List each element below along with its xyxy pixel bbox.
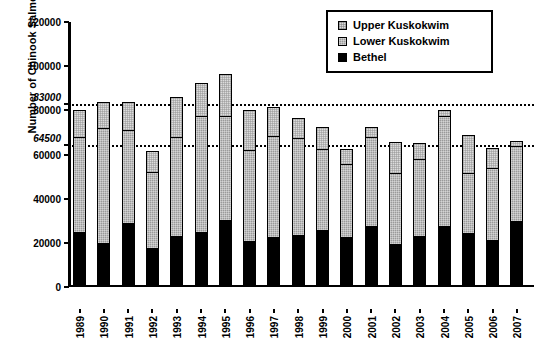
bar-segment-upper-kuskokwim-2001 xyxy=(365,127,378,137)
legend-item-lower-kuskokwim: Lower Kuskokwim xyxy=(328,33,491,49)
bar-segment-bethel-2000 xyxy=(340,237,353,287)
bar-2004 xyxy=(438,110,451,287)
bar-segment-bethel-2005 xyxy=(462,233,475,287)
x-tick-1993 xyxy=(176,309,178,313)
reference-line-label-64500: 64500 xyxy=(33,132,61,143)
legend-label-lower: Lower Kuskokwim xyxy=(353,35,450,47)
x-tick-label-1996: 1996 xyxy=(245,316,256,338)
x-tick-label-2004: 2004 xyxy=(440,316,451,338)
x-tick-1990 xyxy=(103,309,105,313)
bar-segment-bethel-1989 xyxy=(73,232,86,287)
bar-segment-bethel-1993 xyxy=(170,236,183,287)
x-tick-label-2001: 2001 xyxy=(367,316,378,338)
bar-segment-lower-kuskokwim-2007 xyxy=(510,146,523,221)
bar-segment-upper-kuskokwim-1991 xyxy=(122,102,135,131)
x-tick-1992 xyxy=(151,309,153,313)
chart-legend: Upper Kuskokwim Lower Kuskokwim Bethel xyxy=(326,10,493,73)
x-tick-1998 xyxy=(297,309,299,313)
bar-segment-bethel-2002 xyxy=(389,244,402,287)
x-tick-2001 xyxy=(370,309,372,313)
bar-1990 xyxy=(97,102,110,287)
x-tick-label-2000: 2000 xyxy=(342,316,353,338)
bar-segment-lower-kuskokwim-1994 xyxy=(195,116,208,232)
bar-segment-upper-kuskokwim-1992 xyxy=(146,151,159,172)
x-tick-label-2003: 2003 xyxy=(415,316,426,338)
y-tick-label-120000: 120000 xyxy=(28,17,61,28)
y-tick-label-40000: 40000 xyxy=(33,193,61,204)
bar-segment-bethel-1996 xyxy=(243,241,256,287)
x-tick-label-1989: 1989 xyxy=(75,316,86,338)
bar-2003 xyxy=(413,143,426,287)
bar-segment-upper-kuskokwim-1990 xyxy=(97,102,110,129)
x-tick-1991 xyxy=(127,309,129,313)
x-tick-2003 xyxy=(419,309,421,313)
x-tick-label-2007: 2007 xyxy=(512,316,523,338)
bar-segment-lower-kuskokwim-1996 xyxy=(243,150,256,241)
bar-segment-upper-kuskokwim-2002 xyxy=(389,142,402,173)
bar-1997 xyxy=(267,107,280,287)
bar-segment-lower-kuskokwim-2005 xyxy=(462,173,475,233)
bar-segment-upper-kuskokwim-1998 xyxy=(292,118,305,138)
x-tick-1999 xyxy=(322,309,324,313)
bar-1995 xyxy=(219,74,232,287)
bar-1998 xyxy=(292,118,305,287)
y-tick-label-80000: 80000 xyxy=(33,105,61,116)
bar-segment-lower-kuskokwim-1993 xyxy=(170,137,183,236)
x-tick-2007 xyxy=(516,309,518,313)
bar-segment-lower-kuskokwim-1998 xyxy=(292,138,305,235)
bar-segment-bethel-1991 xyxy=(122,223,135,287)
bar-segment-upper-kuskokwim-1995 xyxy=(219,74,232,116)
bar-segment-lower-kuskokwim-1989 xyxy=(73,137,86,232)
bar-segment-lower-kuskokwim-1990 xyxy=(97,128,110,243)
bar-segment-lower-kuskokwim-2002 xyxy=(389,173,402,244)
x-tick-label-1995: 1995 xyxy=(221,316,232,338)
x-tick-2002 xyxy=(394,309,396,313)
x-tick-label-1993: 1993 xyxy=(172,316,183,338)
x-tick-1989 xyxy=(79,309,81,313)
bar-segment-bethel-1994 xyxy=(195,232,208,287)
x-tick-label-1998: 1998 xyxy=(294,316,305,338)
legend-swatch-icon-upper xyxy=(338,21,347,30)
legend-item-bethel: Bethel xyxy=(328,49,491,65)
bar-segment-upper-kuskokwim-1996 xyxy=(243,110,256,150)
y-tick-label-60000: 60000 xyxy=(33,149,61,160)
bar-1991 xyxy=(122,102,135,287)
legend-label-upper: Upper Kuskokwim xyxy=(353,19,449,31)
bar-1993 xyxy=(170,97,183,287)
bar-segment-lower-kuskokwim-2004 xyxy=(438,116,451,226)
x-tick-label-1997: 1997 xyxy=(269,316,280,338)
bar-2005 xyxy=(462,135,475,287)
y-tick-label-100000: 100000 xyxy=(28,61,61,72)
bar-segment-bethel-1997 xyxy=(267,237,280,287)
x-tick-label-1992: 1992 xyxy=(148,316,159,338)
legend-item-upper-kuskokwim: Upper Kuskokwim xyxy=(328,17,491,33)
bar-segment-upper-kuskokwim-1994 xyxy=(195,83,208,116)
x-tick-label-2002: 2002 xyxy=(391,316,402,338)
x-tick-label-2005: 2005 xyxy=(464,316,475,338)
bar-segment-upper-kuskokwim-2006 xyxy=(486,148,499,168)
reference-line-label-83000: 83000 xyxy=(33,91,61,102)
x-tick-label-1999: 1999 xyxy=(318,316,329,338)
bar-2000 xyxy=(340,149,353,287)
bar-segment-lower-kuskokwim-1995 xyxy=(219,116,232,220)
x-tick-label-1994: 1994 xyxy=(197,316,208,338)
bar-segment-bethel-1990 xyxy=(97,243,110,287)
bar-segment-lower-kuskokwim-2000 xyxy=(340,164,353,237)
bar-1996 xyxy=(243,110,256,287)
bar-2001 xyxy=(365,127,378,287)
bar-segment-lower-kuskokwim-1999 xyxy=(316,149,329,230)
bar-segment-upper-kuskokwim-1997 xyxy=(267,107,280,136)
bar-2007 xyxy=(510,141,523,287)
bar-segment-upper-kuskokwim-1989 xyxy=(73,110,86,137)
bar-segment-bethel-2004 xyxy=(438,226,451,287)
x-tick-label-2006: 2006 xyxy=(488,316,499,338)
bar-segment-bethel-2003 xyxy=(413,236,426,287)
bar-segment-bethel-1998 xyxy=(292,235,305,287)
x-tick-label-1990: 1990 xyxy=(99,316,110,338)
bar-segment-upper-kuskokwim-1993 xyxy=(170,97,183,137)
bar-segment-bethel-2006 xyxy=(486,240,499,287)
bar-segment-bethel-2007 xyxy=(510,221,523,287)
legend-swatch-icon-lower xyxy=(338,37,347,46)
bar-1994 xyxy=(195,83,208,287)
x-tick-2000 xyxy=(346,309,348,313)
